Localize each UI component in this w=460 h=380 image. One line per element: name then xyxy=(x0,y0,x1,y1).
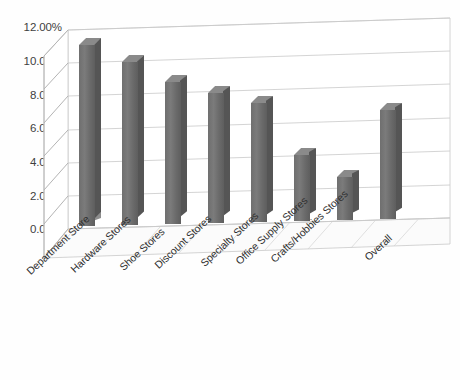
bar-side-face xyxy=(352,170,359,213)
bar-front-face xyxy=(79,45,95,226)
bar-front-face xyxy=(380,110,396,219)
left-wall xyxy=(44,30,68,258)
bar-side-face xyxy=(137,55,144,218)
bar-side-face xyxy=(223,86,230,216)
bar-front-face xyxy=(251,103,267,222)
bar-side-face xyxy=(266,96,273,215)
bar-side-face xyxy=(309,148,316,214)
bar-side-face xyxy=(395,103,402,212)
bar-side-face xyxy=(180,75,187,217)
bar-side-face xyxy=(94,38,101,219)
chart-container: 12.00% 10.00% 8.00% 6.00% 4.00% 2.00% 0.… xyxy=(0,0,460,380)
bar-front-face xyxy=(122,62,138,225)
bar-front-face xyxy=(165,82,181,224)
bar-front-face xyxy=(208,93,224,223)
